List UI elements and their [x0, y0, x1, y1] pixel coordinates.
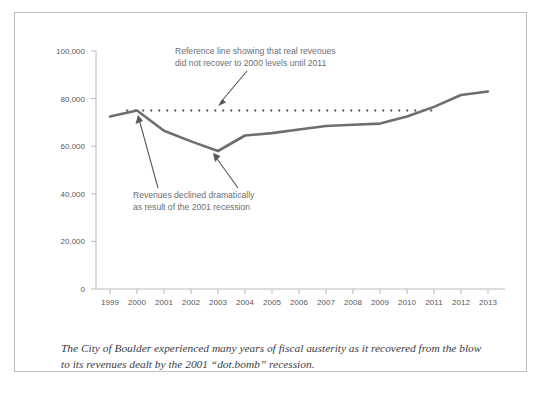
y-tick-label: 60,000 — [61, 142, 86, 151]
x-tick-label: 2010 — [398, 298, 416, 307]
x-tick-label: 2012 — [452, 298, 470, 307]
caption-line-1: The City of Boulder experienced many yea… — [61, 340, 516, 356]
figure-caption: The City of Boulder experienced many yea… — [61, 340, 516, 372]
x-tick-label: 2006 — [290, 298, 308, 307]
annotation-arrow-head — [213, 153, 221, 162]
annotation-arrow-shaft — [139, 119, 158, 188]
annotation-line: Revenues declined dramatically — [133, 190, 255, 200]
x-tick-label: 2009 — [371, 298, 389, 307]
caption-line-2: to its revenues dealt by the 2001 “dot.b… — [61, 356, 516, 372]
annotation-line: Reference line showing that real revenue… — [175, 46, 336, 56]
x-tick-label: 2005 — [263, 298, 281, 307]
reference-line-annotation: Reference line showing that real revenue… — [175, 46, 336, 106]
y-tick-label: 100,000 — [56, 47, 85, 56]
x-axis-tick-labels: 1999 2000 2001 2002 2003 2004 2005 2006 … — [101, 298, 497, 307]
x-axis-ticks — [110, 289, 488, 294]
revenue-data-line — [110, 92, 488, 152]
x-tick-label: 1999 — [101, 298, 119, 307]
recession-annotation: Revenues declined dramatically as result… — [133, 115, 255, 212]
y-tick-label: 40,000 — [61, 190, 86, 199]
y-tick-label: 20,000 — [61, 237, 86, 246]
annotation-arrow-head — [136, 115, 144, 124]
x-tick-label: 2008 — [344, 298, 362, 307]
figure-container: 100,000 80,000 60,000 40,000 20,000 0 — [14, 12, 527, 372]
x-tick-label: 2002 — [182, 298, 200, 307]
y-axis-ticks — [91, 51, 96, 289]
y-tick-label: 0 — [81, 285, 86, 294]
x-tick-label: 2011 — [425, 298, 443, 307]
x-tick-label: 2001 — [155, 298, 173, 307]
x-tick-label: 2003 — [209, 298, 227, 307]
revenue-line-chart: 100,000 80,000 60,000 40,000 20,000 0 — [15, 13, 526, 371]
y-tick-label: 80,000 — [61, 95, 86, 104]
x-tick-label: 2007 — [317, 298, 335, 307]
annotation-line: as result of the 2001 recession — [133, 202, 250, 212]
annotation-arrow-shaft — [220, 71, 247, 103]
x-tick-label: 2004 — [236, 298, 254, 307]
y-axis-tick-labels: 100,000 80,000 60,000 40,000 20,000 0 — [56, 47, 85, 294]
annotation-arrow-shaft — [215, 156, 238, 188]
annotation-arrow-head — [218, 99, 226, 106]
x-tick-label: 2000 — [128, 298, 146, 307]
x-tick-label: 2013 — [479, 298, 497, 307]
annotation-line: did not recover to 2000 levels until 201… — [175, 58, 327, 68]
